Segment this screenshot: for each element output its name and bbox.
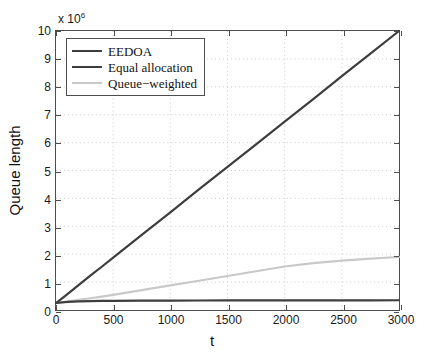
y-axis-multiplier-exponent: 6 — [81, 11, 85, 20]
y-tick-label: 8 — [44, 81, 51, 93]
legend-line-icon — [72, 50, 102, 52]
y-tick-label: 9 — [44, 53, 51, 65]
x-tick-mark — [171, 31, 172, 36]
y-tick-label: 6 — [44, 137, 51, 149]
y-tick-mark — [56, 256, 61, 257]
y-tick-label: 2 — [44, 250, 51, 262]
plot-area: 012345678910050010001500200025003000 EED… — [55, 30, 400, 311]
y-tick-label: 1 — [44, 278, 51, 290]
legend: EEDOAEqual allocationQueue−weighted — [66, 38, 205, 96]
y-tick-mark — [56, 143, 61, 144]
x-tick-mark — [344, 31, 345, 36]
y-tick-mark — [394, 172, 399, 173]
legend-item-label: Queue−weighted — [108, 77, 197, 90]
y-tick-mark — [56, 115, 61, 116]
x-tick-mark — [286, 31, 287, 36]
y-axis-label-text: Queue length — [7, 125, 22, 215]
y-tick-mark — [394, 59, 399, 60]
x-tick-mark — [114, 305, 115, 310]
y-tick-label: 5 — [44, 166, 51, 178]
legend-item[interactable]: Equal allocation — [72, 59, 197, 75]
x-tick-mark — [401, 31, 402, 36]
series-line — [56, 300, 399, 303]
y-tick-mark — [394, 87, 399, 88]
y-tick-label: 3 — [44, 222, 51, 234]
x-tick-mark — [56, 305, 57, 310]
x-tick-label: 2500 — [330, 314, 357, 326]
y-tick-mark — [56, 200, 61, 201]
y-tick-mark — [394, 143, 399, 144]
x-tick-mark — [171, 305, 172, 310]
y-tick-mark — [394, 200, 399, 201]
x-axis-label: t — [0, 333, 424, 348]
y-tick-mark — [56, 59, 61, 60]
y-tick-label: 4 — [44, 194, 51, 206]
legend-line-icon — [72, 66, 102, 68]
y-tick-mark — [394, 256, 399, 257]
legend-item[interactable]: EEDOA — [72, 43, 197, 59]
legend-item-label: EEDOA — [108, 45, 152, 58]
y-tick-mark — [394, 284, 399, 285]
x-tick-mark — [344, 305, 345, 310]
legend-item-label: Equal allocation — [108, 61, 193, 74]
x-tick-mark — [56, 31, 57, 36]
y-axis-multiplier-text: x 10 — [58, 12, 81, 26]
y-tick-mark — [394, 31, 399, 32]
y-tick-mark — [394, 228, 399, 229]
y-axis-label: Queue length — [4, 30, 24, 311]
x-tick-mark — [286, 305, 287, 310]
x-tick-label: 0 — [53, 314, 60, 326]
x-tick-label: 1000 — [158, 314, 185, 326]
series-line — [56, 257, 399, 303]
y-axis-multiplier: x 106 — [58, 12, 85, 25]
x-tick-label: 500 — [103, 314, 123, 326]
x-tick-mark — [229, 31, 230, 36]
x-tick-mark — [401, 305, 402, 310]
x-tick-mark — [229, 305, 230, 310]
x-tick-label: 1500 — [215, 314, 242, 326]
y-tick-mark — [56, 172, 61, 173]
y-tick-mark — [56, 87, 61, 88]
y-tick-label: 0 — [44, 306, 51, 318]
y-tick-mark — [56, 284, 61, 285]
x-tick-mark — [114, 31, 115, 36]
x-tick-label: 3000 — [388, 314, 415, 326]
x-axis-label-text: t — [210, 332, 214, 349]
figure-container: x 106 Queue length t 0123456789100500100… — [0, 0, 424, 362]
legend-line-icon — [72, 82, 102, 84]
y-tick-label: 10 — [38, 25, 51, 37]
y-tick-mark — [394, 115, 399, 116]
legend-item[interactable]: Queue−weighted — [72, 75, 197, 91]
y-tick-mark — [56, 228, 61, 229]
x-tick-label: 2000 — [273, 314, 300, 326]
y-tick-label: 7 — [44, 109, 51, 121]
